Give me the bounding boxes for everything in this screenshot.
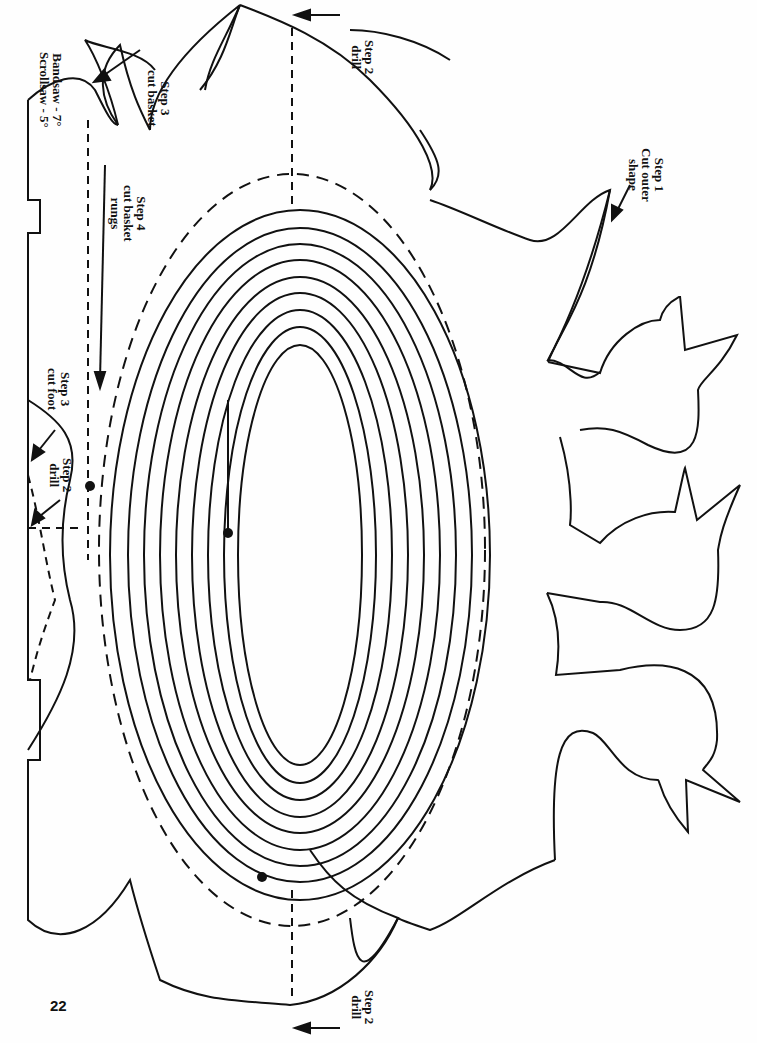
step2-mid-label: Step 2 drill — [48, 458, 74, 492]
bandsaw-angle: Bandsaw - 7° — [51, 52, 64, 128]
step-number: Step 3 — [59, 368, 72, 410]
step-text: cut foot — [46, 368, 59, 410]
step-number: Step 2 — [363, 40, 376, 74]
step-number: Step 1 — [653, 148, 666, 202]
scrollsaw-angle: Scrollsaw - 5° — [38, 52, 51, 128]
basket-rungs — [110, 210, 490, 900]
step-text: Cut outer — [640, 148, 653, 202]
step-number: Step 4 — [135, 185, 148, 242]
step-text: cut basket — [122, 185, 135, 242]
chick-shape-2 — [547, 437, 740, 630]
top-teeth — [85, 5, 450, 190]
page-number: 22 — [50, 997, 67, 1014]
chick-shape-3 — [547, 593, 740, 860]
step1-label: Step 1 Cut outer shape — [627, 148, 666, 202]
drill-point-bottom — [257, 872, 267, 882]
step-text: cut basket — [146, 70, 159, 127]
arrow-step2-top — [295, 10, 310, 20]
arrow-step1 — [612, 205, 622, 220]
foot-dashed-curve — [28, 475, 55, 680]
step4-label: Step 4 cut basket rungs — [109, 185, 148, 242]
step3-basket-label: Step 3 cut basket — [146, 70, 172, 127]
step2-top-label: Step 2 drill — [350, 40, 376, 74]
drill-point-inner — [223, 528, 233, 538]
step-number: Step 2 — [363, 990, 376, 1024]
step2-bottom-label: Step 2 drill — [350, 990, 376, 1024]
chick-shape-1 — [548, 190, 737, 453]
pattern-page: Bandsaw - 7° Scrollsaw - 5° Step 3 cut b… — [0, 0, 757, 1043]
arrow-step2-bottom — [295, 1023, 310, 1033]
step-number: Step 2 — [61, 458, 74, 492]
outer-shape-outline — [28, 5, 610, 1005]
step-number: Step 3 — [159, 70, 172, 127]
drill-point-left — [85, 481, 95, 491]
angle-note: Bandsaw - 7° Scrollsaw - 5° — [38, 52, 64, 128]
step3-foot-label: Step 3 cut foot — [46, 368, 72, 410]
arrow-step4 — [95, 372, 105, 388]
